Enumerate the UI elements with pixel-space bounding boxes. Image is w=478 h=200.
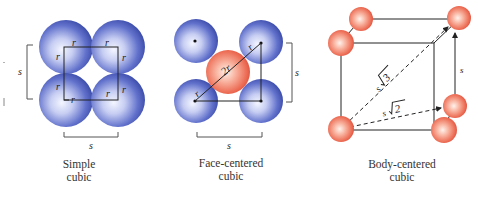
atom-sphere-red — [443, 94, 467, 118]
radius-label: r — [106, 88, 110, 99]
body-diagonal-label: s 3 — [370, 65, 398, 94]
side-label: s — [89, 140, 93, 151]
radius-label: r — [72, 37, 76, 48]
side-label: s — [295, 67, 299, 78]
caption-line2: cubic — [67, 171, 92, 183]
atom-sphere-red — [328, 116, 354, 142]
radius-label: r — [56, 51, 60, 62]
side-bracket-right — [286, 43, 292, 102]
svg-text:s: s — [373, 84, 383, 94]
caption-line2: cubic — [219, 170, 244, 182]
radius-label: r — [122, 84, 126, 95]
caption-line1: Simple — [63, 158, 96, 171]
atom-sphere-red — [328, 30, 354, 56]
side-bracket-bottom — [64, 132, 118, 137]
atom-sphere-red — [349, 7, 373, 31]
edge-label: s — [460, 65, 464, 75]
radius-label: r — [122, 52, 126, 63]
atom-sphere-red — [431, 117, 457, 143]
caption-line1: Face-centered — [199, 157, 264, 169]
crystal-lattice-diagram: r r r r r r r r s s Simple cubic r 2r r … — [0, 0, 478, 200]
side-bracket-bottom — [197, 132, 262, 137]
side-label: s — [18, 66, 22, 77]
center-dot — [193, 39, 196, 42]
caption-line1: Body-centered — [368, 158, 436, 171]
svg-text:3: 3 — [379, 71, 393, 84]
radius-label: r — [71, 94, 75, 105]
face-diagonal-label: s 2 — [381, 100, 408, 119]
simple-cubic-panel: r r r r r r r r s s Simple cubic — [4, 20, 145, 183]
radius-label: r — [105, 37, 109, 48]
svg-text:s: s — [381, 108, 387, 119]
side-label: s — [227, 140, 231, 151]
atom-sphere-red — [447, 6, 471, 30]
face-centered-cubic-panel: r 2r r s s Face-centered cubic — [174, 19, 299, 182]
svg-text:2: 2 — [394, 102, 402, 115]
radius-label: r — [56, 81, 60, 92]
side-bracket-left — [27, 45, 33, 99]
caption-line2: cubic — [390, 171, 415, 183]
body-centered-cubic-panel: s 3 s 2 s Body-centered cubic — [328, 6, 471, 183]
